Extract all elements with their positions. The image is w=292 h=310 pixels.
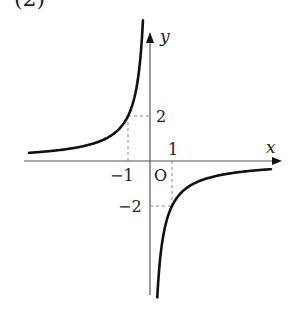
x-axis-label: x xyxy=(266,137,276,157)
y-tick-label-2: 2 xyxy=(156,107,166,126)
y-tick-label-neg2: −2 xyxy=(118,197,142,216)
y-axis-arrow-icon xyxy=(146,32,154,43)
x-tick-label-1: 1 xyxy=(168,140,178,159)
x-tick-label-neg1: −1 xyxy=(110,166,134,185)
hyperbola-chart: (2) x y O −1 1 2 −2 xyxy=(0,0,292,310)
y-axis-label: y xyxy=(159,26,170,46)
figure-label: (2) xyxy=(14,0,45,11)
origin-label: O xyxy=(154,166,167,185)
x-axis-arrow-icon xyxy=(272,157,282,165)
curve-left-branch xyxy=(29,20,143,152)
curve-right-branch xyxy=(157,169,271,297)
